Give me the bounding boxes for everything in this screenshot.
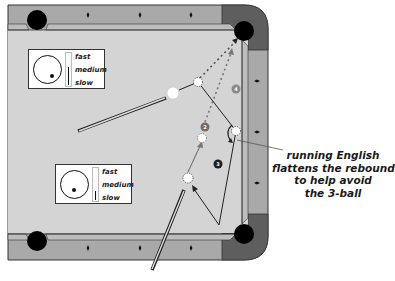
speed-label-fast: fast (75, 53, 90, 61)
cue-ball-spin-icon (60, 170, 89, 199)
speed-label-slow: slow (102, 194, 120, 202)
speed-gauge (92, 167, 99, 202)
speed-label-slow: slow (75, 79, 93, 87)
cushion-right (242, 40, 248, 224)
pocket-top-left (27, 10, 47, 30)
cue-ball (168, 88, 179, 99)
ball-3-number: 3 (216, 161, 220, 167)
annotation-line-2: flattens the rebound (272, 162, 394, 175)
ghost-ball-3 (183, 173, 193, 183)
cushion-bottom (46, 234, 236, 240)
cushion-bottom-left (8, 234, 29, 240)
annotation-line-1: running English (272, 149, 394, 162)
cue-ball-spin-icon (33, 55, 62, 84)
ball-2-number: 2 (203, 124, 207, 130)
pocket-bottom-right (234, 224, 254, 244)
ghost-ball-2 (198, 134, 207, 143)
speed-gauge-fill (68, 67, 69, 85)
speed-gauge-fill (95, 191, 96, 200)
ball-4: 4 (232, 85, 241, 94)
spin-contact-dot (72, 188, 76, 192)
speed-indicator-2: fast medium slow (55, 164, 132, 204)
cushion-top (46, 24, 236, 30)
table-frame (8, 5, 268, 260)
annotation-line-3: to help avoid (272, 174, 394, 187)
speed-gauge (65, 52, 72, 87)
speed-indicator-1: fast medium slow (28, 49, 105, 89)
ball-3: 3 (214, 160, 223, 169)
ghost-ball-1 (194, 78, 203, 87)
ball-4-number: 4 (234, 86, 238, 92)
spin-contact-dot (50, 74, 54, 78)
pocket-top-right (234, 21, 254, 41)
speed-label-medium: medium (75, 66, 107, 74)
ghost-ball-rail (232, 127, 241, 136)
annotation-line-4: the 3-ball (272, 187, 394, 200)
speed-label-fast: fast (102, 168, 117, 176)
annotation-text: running English flattens the rebound to … (272, 149, 394, 199)
cushion-top-left (8, 24, 29, 30)
pocket-bottom-left (27, 231, 47, 251)
pool-table-diagram: 4 2 3 (0, 0, 395, 281)
ball-2: 2 (201, 123, 210, 132)
speed-label-medium: medium (102, 181, 134, 189)
